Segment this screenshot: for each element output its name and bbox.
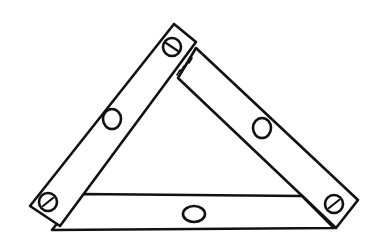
right-strip-hole <box>253 118 271 138</box>
triangle-diagram <box>0 0 382 252</box>
bottom-left-bolt <box>39 193 57 211</box>
left-strip-hole <box>103 109 121 129</box>
top-bolt <box>163 38 181 56</box>
bottom-right-bolt <box>325 195 343 213</box>
bottom-strip-hole <box>183 206 205 222</box>
